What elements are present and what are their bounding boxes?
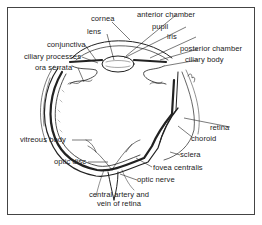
label-fovea-centralis: fovea centralis	[153, 164, 203, 172]
label-lens: lens	[87, 28, 101, 36]
label-choroid: choroid	[191, 135, 216, 143]
label-optic-nerve: optic nerve	[137, 176, 175, 184]
label-posterior-chamber: posterior chamber	[180, 45, 242, 53]
label-optic-disc: optic disc	[54, 158, 86, 166]
label-ciliary-body: ciliary body	[185, 56, 224, 64]
label-central-artery-line2: vein of retina	[84, 200, 154, 208]
label-ciliary-processes: ciliary processes	[24, 53, 81, 61]
label-retina: retina	[210, 124, 229, 132]
label-ora-serrata: ora serrata	[35, 64, 72, 72]
label-cornea: cornea	[91, 15, 115, 23]
label-sclera: sclera	[180, 151, 201, 159]
label-conjunctiva: conjunctiva	[47, 41, 86, 49]
label-anterior-chamber: anterior chamber	[137, 11, 195, 19]
label-central-artery-line1: central artery and	[84, 191, 154, 199]
label-pupil: pupil	[152, 23, 168, 31]
label-vitreous-body: vitreous body	[20, 136, 66, 144]
label-iris: iris	[167, 33, 177, 41]
